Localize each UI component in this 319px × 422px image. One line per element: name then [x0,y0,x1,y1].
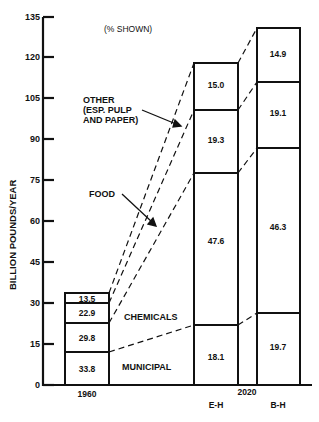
x-label-eh: E-H [209,400,224,410]
y-tick-60: 60 [30,216,40,226]
x-label-2020: 2020 [238,387,257,397]
y-tick-135: 135 [25,12,40,22]
value-1960-municipal: 33.8 [79,364,96,374]
label-other-line2: (ESP. PULP [83,105,132,115]
value-eh-chemicals: 19.3 [208,135,225,145]
label-other-line3: AND PAPER) [83,115,138,125]
bar-2020-eh [194,63,238,385]
value-1960-chemicals: 22.9 [79,308,96,318]
value-1960-other: 13.5 [79,294,96,304]
y-tick-120: 120 [25,52,40,62]
value-bh-food: 46.3 [270,222,287,232]
y-axis-label: BILLION POUNDS/YEAR [7,180,18,290]
value-eh-other: 15.0 [208,80,225,90]
value-bh-other: 14.9 [270,49,287,59]
x-label-bh: B-H [270,400,285,410]
label-chemicals: CHEMICALS [124,312,178,322]
y-tick-75: 75 [30,175,40,185]
label-municipal: MUNICIPAL [122,362,172,372]
y-tick-105: 105 [25,93,40,103]
stacked-bar-chart: 0 15 30 45 60 75 90 105 120 135 BILLION … [0,0,319,422]
y-tick-0: 0 [35,380,40,390]
y-tick-labels: 0 15 30 45 60 75 90 105 120 135 [25,12,40,390]
y-tick-90: 90 [30,134,40,144]
value-bh-chemicals: 19.1 [270,108,287,118]
x-label-1960: 1960 [78,389,97,399]
chart-subtitle: (% SHOWN) [104,24,152,34]
arrow-head-other [173,120,181,127]
label-food: FOOD [89,189,115,199]
y-tick-45: 45 [30,257,40,267]
x-axis-labels: 1960 2020 E-H B-H [78,387,286,410]
bar-2020-bh [257,28,300,385]
value-1960-food: 29.8 [79,333,96,343]
value-eh-food: 47.6 [208,236,225,246]
label-other-line1: OTHER [83,95,115,105]
value-bh-municipal: 19.7 [270,342,287,352]
y-tick-15: 15 [30,339,40,349]
value-eh-municipal: 18.1 [208,352,225,362]
y-tick-30: 30 [30,298,40,308]
annotation-arrows [122,110,181,226]
